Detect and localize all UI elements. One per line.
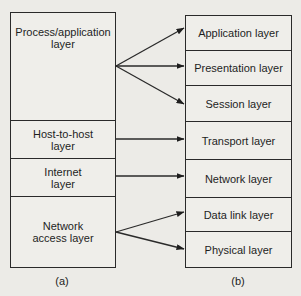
caption-a: (a) [42,275,82,287]
caption-b: (b) [218,275,258,287]
arrow-to-application [116,28,184,66]
mapping-arrows [0,0,301,296]
layer-mapping-diagram: Process/application layer Host-to-host l… [0,0,301,296]
arrow-to-physical [116,232,184,249]
arrow-to-data-link [116,212,184,232]
arrow-to-session [116,66,184,104]
